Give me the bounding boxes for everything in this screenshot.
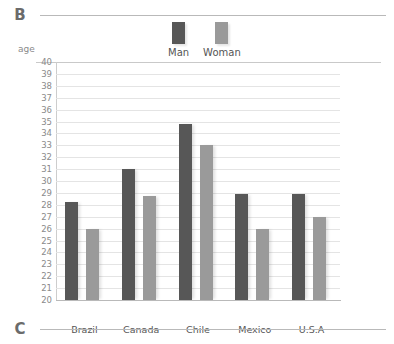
x-axis-line xyxy=(56,300,341,301)
y-tick-label: 26 xyxy=(22,225,52,234)
bar-usa-woman[interactable] xyxy=(313,217,326,300)
y-tick-label: 40 xyxy=(22,58,52,67)
y-tick-label: 32 xyxy=(22,153,52,162)
panel-c-header: C xyxy=(0,318,394,340)
bar-chart: age 403938373635343332313029282726252423… xyxy=(0,44,394,316)
y-tick-label: 31 xyxy=(22,165,52,174)
bar-chile-woman[interactable] xyxy=(200,145,213,300)
bar-group: Canada xyxy=(113,62,170,300)
bar-mexico-woman[interactable] xyxy=(256,229,269,300)
y-tick-label: 33 xyxy=(22,141,52,150)
y-tick-label: 28 xyxy=(22,201,52,210)
y-tick-label: 24 xyxy=(22,248,52,257)
legend-swatch-man xyxy=(172,22,185,44)
y-tick-label: 25 xyxy=(22,237,52,246)
panel-b-divider xyxy=(40,15,386,16)
bar-usa-man[interactable] xyxy=(292,194,305,300)
y-tick-label: 35 xyxy=(22,118,52,127)
legend-swatch-woman xyxy=(215,22,228,44)
bar-group: Brazil xyxy=(56,62,113,300)
bar-group: Mexico xyxy=(226,62,283,300)
y-tick-label: 34 xyxy=(22,129,52,138)
bar-group: Chile xyxy=(170,62,227,300)
y-tick-label: 36 xyxy=(22,106,52,115)
y-tick-label: 38 xyxy=(22,82,52,91)
y-tick-label: 37 xyxy=(22,94,52,103)
bar-brazil-woman[interactable] xyxy=(86,229,99,300)
bar-chile-man[interactable] xyxy=(179,124,192,300)
bar-mexico-man[interactable] xyxy=(235,194,248,300)
y-tick-label: 21 xyxy=(22,284,52,293)
y-tick-label: 39 xyxy=(22,70,52,79)
panel-c-divider xyxy=(40,329,386,330)
y-tick-label: 20 xyxy=(22,296,52,305)
y-axis-title: age xyxy=(18,44,35,54)
plot-area: BrazilCanadaChileMexicoU.S.A xyxy=(56,62,340,300)
bar-canada-woman[interactable] xyxy=(143,196,156,300)
bar-brazil-man[interactable] xyxy=(65,202,78,300)
y-tick-label: 23 xyxy=(22,260,52,269)
panel-c-letter: C xyxy=(0,320,40,338)
y-tick-label: 27 xyxy=(22,213,52,222)
bar-canada-man[interactable] xyxy=(122,169,135,300)
y-tick-label: 29 xyxy=(22,189,52,198)
bar-group: U.S.A xyxy=(283,62,340,300)
y-tick-label: 22 xyxy=(22,272,52,281)
y-tick-label: 30 xyxy=(22,177,52,186)
y-axis-tick-labels: 4039383736353433323130292827262524232221… xyxy=(20,62,52,300)
